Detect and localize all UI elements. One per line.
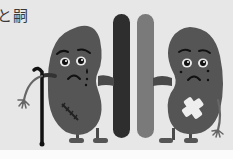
left-kidney	[18, 26, 114, 147]
right-kidney	[153, 27, 223, 143]
blood-vessels	[113, 14, 154, 138]
bottom-strip	[0, 150, 233, 159]
kidney-illustration	[0, 0, 233, 150]
light-vessel	[137, 14, 154, 138]
dark-vessel	[113, 14, 130, 138]
